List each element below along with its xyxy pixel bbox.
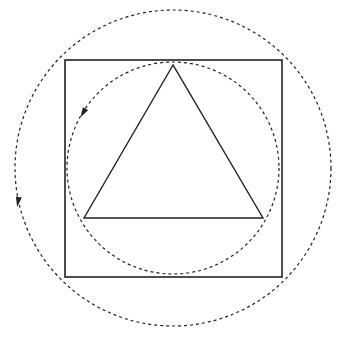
inner-dashed-circle [67,62,279,274]
square [65,60,282,277]
outer-dashed-circle [15,10,331,326]
triangle [84,65,263,218]
geometry-diagram [0,0,337,337]
outer-circle-direction-arrow-icon [14,197,22,208]
